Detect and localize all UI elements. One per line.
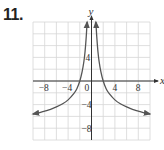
- y-tick-label: −8: [82, 124, 92, 134]
- x-tick-label: 8: [136, 83, 141, 93]
- tick-labels: −8−40484−4−8: [39, 53, 141, 134]
- axes: xy: [33, 5, 164, 140]
- right-branch-curve: [96, 22, 150, 114]
- left-branch-curve: [33, 22, 87, 114]
- x-axis-label: x: [159, 74, 164, 86]
- y-tick-label: −4: [82, 100, 92, 110]
- x-tick-label: −4: [62, 83, 72, 93]
- y-tick-label: 4: [86, 53, 91, 63]
- function-graph: xy −8−40484−4−8: [0, 0, 164, 150]
- x-tick-label: −8: [39, 83, 49, 93]
- y-axis-label: y: [88, 5, 94, 17]
- x-tick-label: 4: [112, 83, 117, 93]
- x-tick-label: 0: [85, 83, 90, 93]
